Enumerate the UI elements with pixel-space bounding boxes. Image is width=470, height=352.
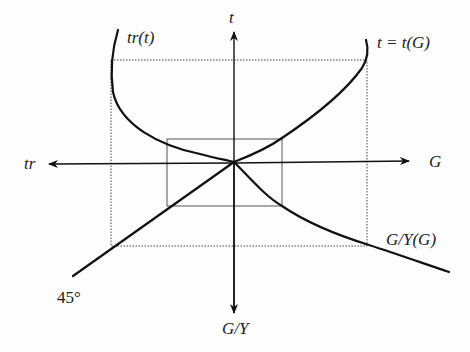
gy-of-g-curve (234, 162, 449, 272)
outer-dotted-rectangle (111, 60, 367, 246)
diagram-canvas: t G tr G/Y tr(t) t = t(G) G/Y(G) 45° (0, 0, 470, 352)
g-axis-right-arrow (234, 161, 409, 163)
forty-five-degree-line (73, 162, 234, 276)
tr-axis-label: tr (24, 154, 36, 173)
t-of-g-curve (234, 40, 367, 162)
tr-of-t-label: tr(t) (127, 28, 155, 47)
four-quadrant-diagram: t G tr G/Y tr(t) t = t(G) G/Y(G) 45° (0, 0, 470, 352)
t-axis-label: t (229, 8, 235, 27)
gy-of-g-label: G/Y(G) (386, 230, 436, 249)
forty-five-degree-label: 45° (57, 288, 81, 307)
g-axis-label: G (429, 152, 441, 171)
gy-axis-label: G/Y (222, 319, 250, 338)
t-of-g-label: t = t(G) (377, 33, 430, 52)
tr-of-t-curve (112, 30, 234, 162)
tr-axis-left-arrow (49, 163, 234, 164)
